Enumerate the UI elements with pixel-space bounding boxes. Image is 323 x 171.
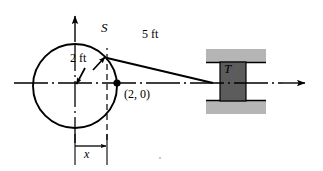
leader-arrow-to-s	[93, 57, 105, 70]
label-origin-point: (2, 0)	[124, 88, 150, 100]
figure-container: S 5 ft 2 ft (2, 0) T x	[0, 0, 323, 171]
kinematic-diagram-svg	[0, 0, 323, 171]
label-point-s: S	[101, 21, 108, 34]
rail-top	[206, 49, 266, 62]
rail-bottom	[206, 101, 266, 114]
x-dimension	[75, 134, 107, 165]
radius-leader-arrow	[77, 68, 86, 84]
label-point-t: T	[224, 62, 231, 75]
label-chord-length: 5 ft	[142, 28, 158, 40]
label-displacement: x	[84, 148, 89, 160]
link-st	[107, 58, 213, 83]
pin-point-marker	[113, 79, 120, 86]
label-radius-length: 2 ft	[70, 52, 86, 64]
print-speck	[159, 157, 161, 159]
